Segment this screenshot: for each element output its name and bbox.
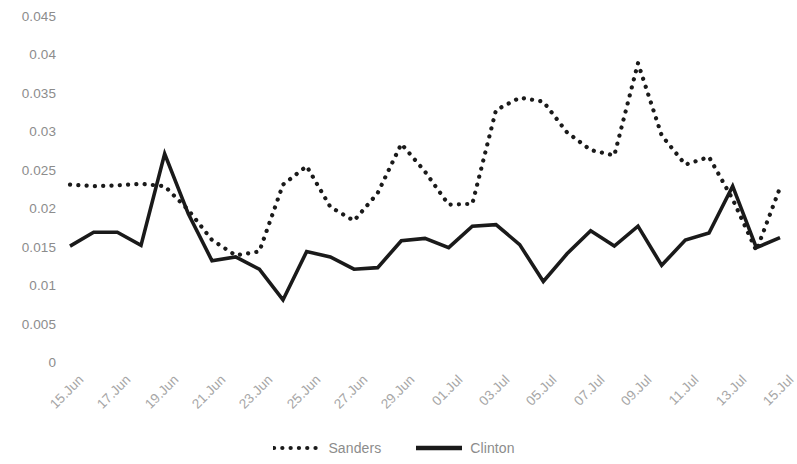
series-line-sanders — [70, 63, 780, 255]
legend-label: Clinton — [470, 440, 514, 456]
x-tick-label: 21.Jun — [181, 372, 228, 419]
x-tick-label: 11.Jul — [655, 372, 702, 419]
series-line-clinton — [70, 154, 780, 300]
x-tick-label: 01.Jul — [418, 372, 465, 419]
plot-area — [0, 0, 788, 380]
x-tick-label: 09.Jul — [607, 372, 654, 419]
legend-item-sanders[interactable]: Sanders — [273, 440, 381, 456]
x-tick-label: 15.Jul — [749, 372, 796, 419]
legend-swatch-dotted — [273, 442, 321, 454]
chart-legend: SandersClinton — [0, 436, 788, 460]
x-tick-label: 19.Jun — [134, 372, 181, 419]
legend-label: Sanders — [328, 440, 381, 456]
x-tick-label: 13.Jul — [702, 372, 749, 419]
x-tick-label: 07.Jul — [560, 372, 607, 419]
x-tick-label: 17.Jun — [87, 372, 134, 419]
x-tick-label: 15.Jun — [39, 372, 86, 419]
x-tick-label: 23.Jun — [229, 372, 276, 419]
x-tick-label: 27.Jun — [323, 372, 370, 419]
x-tick-label: 25.Jun — [276, 372, 323, 419]
x-tick-label: 29.Jun — [371, 372, 418, 419]
legend-swatch-solid — [415, 442, 463, 454]
series-plot — [0, 0, 788, 380]
x-tick-label: 05.Jul — [513, 372, 560, 419]
x-axis: 15.Jun17.Jun19.Jun21.Jun23.Jun25.Jun27.J… — [0, 372, 788, 430]
legend-item-clinton[interactable]: Clinton — [415, 440, 514, 456]
x-tick-label: 03.Jul — [465, 372, 512, 419]
